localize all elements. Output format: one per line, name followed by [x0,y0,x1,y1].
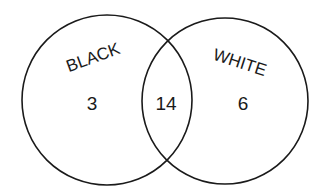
venn-diagram: BLACK WHITE 3 14 6 [0,0,324,195]
black-set-label: BLACK [64,39,124,76]
intersection-count: 14 [155,93,177,114]
white-only-count: 6 [238,93,249,114]
white-set-label: WHITE [211,45,269,80]
black-only-count: 3 [87,93,98,114]
